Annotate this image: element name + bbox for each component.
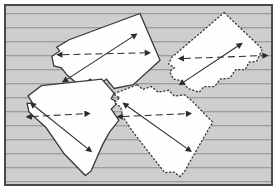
figure-container	[0, 0, 277, 190]
figure-frame	[4, 4, 273, 186]
figure-stage	[6, 6, 271, 184]
scene-svg	[6, 6, 271, 184]
